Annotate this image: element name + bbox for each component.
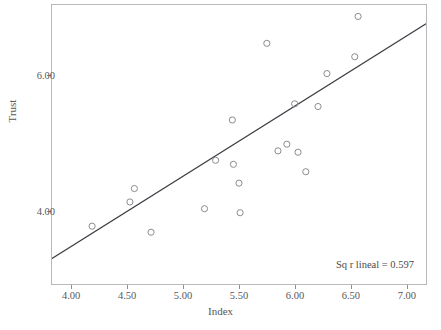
regression-line: [52, 24, 426, 259]
data-point: [352, 54, 358, 60]
data-point: [324, 71, 330, 77]
y-tick-label: 4.00: [37, 205, 55, 216]
x-tick-mark: [407, 285, 408, 289]
plot-area: Sq r lineal = 0.597: [51, 4, 427, 285]
scatter-plot-figure: Sq r lineal = 0.597 4.004.505.005.506.00…: [0, 0, 441, 330]
x-axis-title: Index: [0, 305, 441, 317]
data-point: [355, 13, 361, 19]
y-axis-title: Trust: [6, 66, 18, 156]
data-point: [131, 185, 137, 191]
x-tick-label: 5.00: [174, 290, 192, 301]
y-tick-label: 6.00: [37, 70, 55, 81]
x-tick-label: 4.50: [118, 290, 136, 301]
x-tick-label: 4.00: [62, 290, 80, 301]
data-point: [230, 161, 236, 167]
data-point: [303, 169, 309, 175]
data-point: [229, 117, 235, 123]
x-tick-mark: [127, 285, 128, 289]
data-point: [201, 206, 207, 212]
data-point: [315, 103, 321, 109]
data-points-group: [89, 13, 361, 235]
data-point: [89, 223, 95, 229]
data-point: [236, 180, 242, 186]
x-tick-mark: [351, 285, 352, 289]
data-point: [213, 157, 219, 163]
x-tick-mark: [183, 285, 184, 289]
plot-canvas: [52, 5, 426, 284]
x-tick-label: 7.00: [398, 290, 416, 301]
data-point: [284, 141, 290, 147]
x-tick-label: 5.50: [230, 290, 248, 301]
x-tick-mark: [239, 285, 240, 289]
data-point: [127, 199, 133, 205]
data-point: [148, 229, 154, 235]
x-tick-label: 6.00: [286, 290, 304, 301]
data-point: [264, 40, 270, 46]
r-squared-annotation: Sq r lineal = 0.597: [336, 259, 414, 270]
x-tick-mark: [71, 285, 72, 289]
x-tick-mark: [295, 285, 296, 289]
data-point: [295, 149, 301, 155]
data-point: [237, 210, 243, 216]
data-point: [275, 148, 281, 154]
x-tick-label: 6.50: [342, 290, 360, 301]
